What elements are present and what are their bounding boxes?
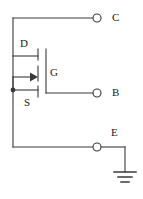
junction-dot — [11, 88, 16, 93]
terminal-label-c: C — [112, 12, 119, 23]
pin-label-drain: D — [20, 38, 28, 49]
terminal-b-node[interactable] — [93, 89, 101, 97]
mosfet-source-arrowhead-icon — [30, 73, 38, 82]
schematic-canvas: C B E D G S — [0, 0, 143, 199]
pin-label-source: S — [24, 97, 30, 108]
terminal-e-node[interactable] — [93, 143, 101, 151]
circuit-schematic — [0, 0, 143, 199]
terminal-label-e: E — [111, 127, 118, 138]
terminal-label-b: B — [112, 87, 119, 98]
pin-label-gate: G — [50, 67, 58, 78]
terminal-c-node[interactable] — [93, 14, 101, 22]
